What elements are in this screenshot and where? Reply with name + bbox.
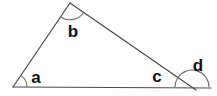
triangle-diagram-canvas: a b c d	[0, 0, 217, 96]
angle-label-b: b	[68, 22, 78, 41]
angle-label-c: c	[152, 67, 161, 86]
angle-label-a: a	[31, 68, 41, 87]
angle-label-d: d	[193, 56, 203, 75]
triangle-diagram-svg: a b c d	[0, 0, 217, 96]
